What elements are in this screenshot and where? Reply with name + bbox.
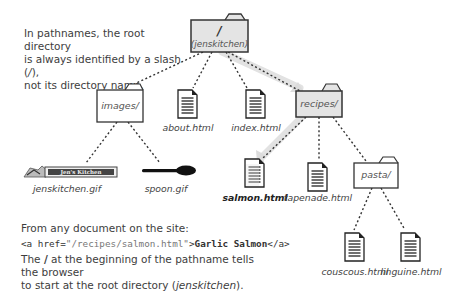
file-jenskitchen-gif[interactable]: Jen's Kitchen jenskitchen.gif (24, 166, 117, 194)
root-folder-name: (jenskitchen) (191, 39, 248, 49)
file-salmon-label: salmon.html (222, 192, 288, 203)
file-tapenade[interactable]: tapenade.html (284, 163, 353, 203)
jenskitchen-logo-text: Jen's Kitchen (59, 169, 101, 176)
file-spoon-gif[interactable]: spoon.gif (142, 166, 196, 195)
code-href-value: "/recipes/salmon.html" (66, 238, 189, 249)
explanation-line-2: to start at the root directory (jenskitc… (21, 279, 261, 291)
jenskitchen-logo-image: Jen's Kitchen (24, 166, 117, 177)
file-jenskitchen-label: jenskitchen.gif (31, 183, 103, 194)
folder-recipes-label: recipes/ (300, 98, 339, 109)
file-about[interactable]: about.html (163, 90, 214, 133)
folder-pasta[interactable]: pasta/ (354, 157, 398, 188)
file-linguine[interactable]: linguine.html (380, 233, 442, 277)
explanation-line-1: The / at the beginning of the pathname t… (21, 253, 261, 279)
file-couscous-label: couscous.html (321, 266, 389, 277)
code-open: <a href= (21, 238, 66, 249)
file-spoon-label: spoon.gif (145, 183, 189, 194)
document-icon (246, 90, 265, 118)
folder-images-label: images/ (101, 100, 141, 111)
folder-images[interactable]: images/ (97, 84, 143, 122)
root-folder[interactable]: / (jenskitchen) (191, 14, 248, 52)
code-end: </a> (267, 238, 289, 249)
folder-pasta-label: pasta/ (360, 169, 392, 180)
document-icon (308, 163, 327, 191)
file-couscous[interactable]: couscous.html (321, 233, 389, 277)
tree-connectors (86, 52, 405, 230)
file-tapenade-label: tapenade.html (284, 192, 353, 203)
from-any-document-note: From any document on the site: (21, 222, 189, 235)
document-icon (401, 233, 420, 261)
code-example: <a href="/recipes/salmon.html">Garlic Sa… (21, 238, 290, 249)
file-index[interactable]: index.html (231, 90, 281, 133)
file-index-label: index.html (231, 122, 281, 133)
document-icon (345, 233, 364, 261)
file-salmon[interactable]: salmon.html (222, 159, 288, 203)
root-slash-explanation: The / at the beginning of the pathname t… (21, 253, 261, 291)
document-icon (178, 90, 197, 118)
spoon-image (142, 166, 196, 176)
file-about-label: about.html (163, 122, 214, 133)
file-linguine-label: linguine.html (380, 266, 442, 277)
code-link-text: Garlic Salmon (195, 238, 268, 249)
